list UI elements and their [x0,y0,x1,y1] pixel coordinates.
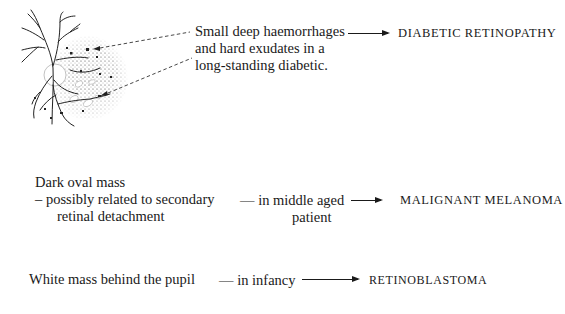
diagnosis-label: DIABETIC RETINOPATHY [398,26,556,41]
qualifier-line: — in middle aged [240,192,344,209]
finding-line: and hard exudates in a [195,40,345,57]
finding-line: Dark oval mass [35,174,215,191]
finding-text: Dark oval mass – possibly related to sec… [35,174,215,225]
arrow-right-icon [351,200,381,201]
arrow-right-icon [348,33,388,34]
diagnosis-label: RETINOBLASTOMA [369,273,487,288]
optic-disc [44,64,66,86]
qualifier-line: patient [240,209,344,226]
diagnosis-label: MALIGNANT MELANOMA [400,193,563,208]
finding-line: long-standing diabetic. [195,57,345,74]
qualifier-text: — in middle aged patient [240,192,344,226]
leader-line-haemorrhage [100,32,190,48]
qualifier-text: — in infancy [219,272,296,289]
arrow-right-icon [302,279,358,280]
finding-line: retinal detachment [35,208,215,225]
finding-text: White mass behind the pupil [29,271,195,288]
finding-line: – possibly related to secondary [35,191,215,208]
finding-text: Small deep haemorrhages and hard exudate… [195,23,345,74]
finding-line: Small deep haemorrhages [195,23,345,40]
